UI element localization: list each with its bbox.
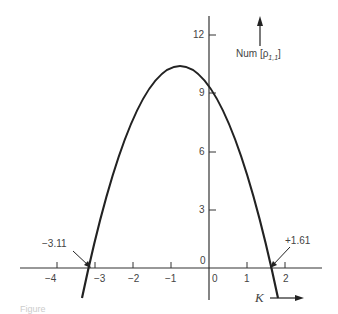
y-tick-label: 0 <box>200 256 206 266</box>
x-tick-label: 0 <box>212 274 218 284</box>
x-tick-label: 2 <box>283 274 289 284</box>
x-tick-label: −2 <box>128 274 139 284</box>
x-axis-label: K <box>255 291 264 304</box>
x-tick-label: 1 <box>244 274 250 284</box>
root-right-label: +1.61 <box>285 236 310 246</box>
y-tick-label: 6 <box>199 147 205 157</box>
x-tick-label: −1 <box>165 274 176 284</box>
x-tick-label: −3 <box>94 274 105 284</box>
y-ticks <box>209 35 216 210</box>
x-ticks <box>57 262 285 268</box>
y-axis-label: Num [ρ1,1] <box>236 49 281 61</box>
x-tick-label: −4 <box>45 274 56 284</box>
root-left-label: −3.11 <box>42 239 67 249</box>
y-tick-label: 9 <box>199 88 205 98</box>
curve <box>82 66 278 298</box>
y-tick-label: 3 <box>199 205 205 215</box>
figure-caption: Figure <box>20 304 46 314</box>
y-tick-label: 12 <box>193 30 204 40</box>
